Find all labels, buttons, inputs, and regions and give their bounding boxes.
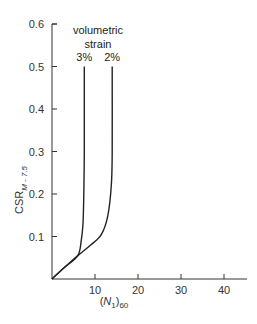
- chart: 0.10.20.30.40.50.6 10203040 CSRM - 7.5 (…: [0, 0, 257, 324]
- x-tick-label: 20: [132, 284, 144, 296]
- annotation-strain: strain: [85, 38, 112, 50]
- y-tick-label: 0.3: [29, 146, 44, 158]
- y-tick-label: 0.4: [29, 103, 44, 115]
- x-axis: 10203040: [52, 274, 247, 296]
- series-layer: 3%2%: [52, 51, 120, 280]
- series-line-3pct: [52, 67, 84, 280]
- y-tick-label: 0.5: [29, 61, 44, 73]
- y-axis-title: CSRM - 7.5: [13, 165, 29, 214]
- series-line-2pct: [52, 67, 112, 280]
- series-label-3pct: 3%: [76, 51, 92, 63]
- x-axis-title: (N1)60: [100, 295, 129, 310]
- x-tick-label: 30: [175, 284, 187, 296]
- y-tick-label: 0.2: [29, 188, 44, 200]
- annotation-volumetric: volumetric: [73, 24, 124, 36]
- x-tick-label: 40: [218, 284, 230, 296]
- y-tick-label: 0.1: [29, 231, 44, 243]
- y-tick-label: 0.6: [29, 18, 44, 30]
- series-label-2pct: 2%: [104, 51, 120, 63]
- y-axis: 0.10.20.30.40.50.6: [29, 18, 57, 279]
